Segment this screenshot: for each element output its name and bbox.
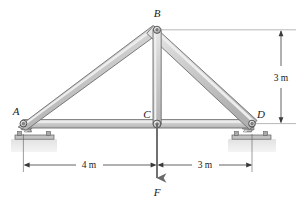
pin-joint-d bbox=[249, 120, 256, 127]
truss-diagram-canvas: 4 m 3 m 3 m A B C D F bbox=[0, 0, 307, 210]
member-bd bbox=[147, 26, 257, 130]
member-bottom-chord bbox=[22, 120, 253, 128]
member-ab bbox=[18, 26, 160, 131]
pin-joint-b bbox=[153, 26, 160, 33]
ground-pad-left bbox=[11, 139, 57, 152]
member-bc bbox=[153, 29, 161, 126]
joint-label-c: C bbox=[143, 108, 151, 120]
joint-label-b: B bbox=[154, 7, 161, 19]
joint-label-a: A bbox=[12, 105, 20, 117]
pin-joint-a bbox=[20, 120, 27, 127]
load-label-f: F bbox=[153, 186, 161, 198]
truss-figure: 4 m 3 m 3 m A B C D F bbox=[0, 0, 307, 210]
dimension-label-3m-span: 3 m bbox=[198, 160, 213, 170]
dimension-label-4m: 4 m bbox=[82, 160, 97, 170]
dimension-label-3m-height: 3 m bbox=[274, 73, 289, 83]
joint-label-d: D bbox=[256, 108, 265, 120]
